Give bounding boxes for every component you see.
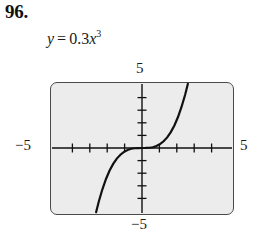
equation-exponent: 3 [96,28,101,39]
equation-expression: y=0.3x3 [47,29,101,48]
equation-equals-sign: = [54,30,69,47]
graph-viewing-window [50,82,234,215]
textbook-problem-figure: 96. y=0.3x3 [0,0,263,244]
equation-coefficient: 0.3 [69,30,89,47]
problem-number: 96. [5,1,28,23]
axis-label-left: −5 [15,137,31,154]
axis-label-top: 5 [136,60,144,77]
axis-label-bottom: −5 [131,216,147,233]
axis-label-right: 5 [240,137,248,154]
graph-plot-area [50,82,234,215]
